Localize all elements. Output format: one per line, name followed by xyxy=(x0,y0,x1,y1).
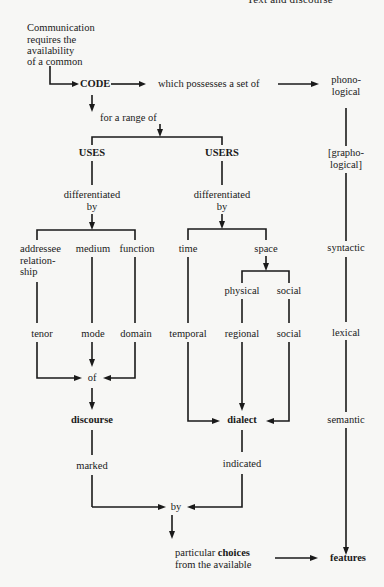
users-differentiated-1: differentiated xyxy=(194,189,250,201)
level-lexical: lexical xyxy=(332,327,360,339)
features-node: features xyxy=(330,552,366,564)
dim-addressee-3: ship xyxy=(20,266,38,278)
level-syntactic: syntactic xyxy=(327,242,364,254)
choices-line-2: from the available xyxy=(175,559,251,571)
uses-node: USES xyxy=(79,147,105,159)
choices-line-1: particular choices xyxy=(175,547,250,559)
users-differentiated-2: by xyxy=(217,201,228,213)
uses-differentiated-2: by xyxy=(87,201,98,213)
intro-connector xyxy=(50,66,74,84)
term-social: social xyxy=(277,328,302,340)
term-temporal: temporal xyxy=(169,328,206,340)
marked-label: marked xyxy=(76,460,108,472)
intro-line-1: Communication xyxy=(27,22,95,34)
dim-physical: physical xyxy=(225,285,260,297)
level-phonological-2: logical xyxy=(332,86,361,98)
dim-function: function xyxy=(120,243,155,255)
dialect-node: dialect xyxy=(227,414,257,426)
intro-line-4: of a common xyxy=(27,56,82,68)
dim-space: space xyxy=(254,243,277,255)
level-graphological-2: logical] xyxy=(330,159,362,171)
dim-time: time xyxy=(179,243,198,255)
of-node: of xyxy=(88,372,97,384)
by-node: by xyxy=(171,501,182,513)
discourse-node: discourse xyxy=(71,414,113,426)
term-domain: domain xyxy=(120,328,152,340)
dim-addressee-1: addressee xyxy=(20,243,61,255)
dim-medium: medium xyxy=(76,243,110,255)
users-node: USERS xyxy=(205,147,239,159)
uses-differentiated-1: differentiated xyxy=(64,189,120,201)
level-phonological-1: phono- xyxy=(331,74,361,86)
choices-prefix: particular xyxy=(175,547,218,558)
level-semantic: semantic xyxy=(327,414,364,426)
indicated-label: indicated xyxy=(223,458,261,470)
dim-social-space: social xyxy=(277,285,302,297)
term-mode: mode xyxy=(81,328,104,340)
code-node: CODE xyxy=(80,78,110,90)
term-regional: regional xyxy=(225,328,259,340)
code-relation-label: which possesses a set of xyxy=(158,78,259,90)
choices-bold: choices xyxy=(218,547,250,558)
term-tenor: tenor xyxy=(31,328,53,340)
level-graphological-1: [grapho- xyxy=(328,147,364,159)
range-label: for a range of xyxy=(100,112,157,124)
